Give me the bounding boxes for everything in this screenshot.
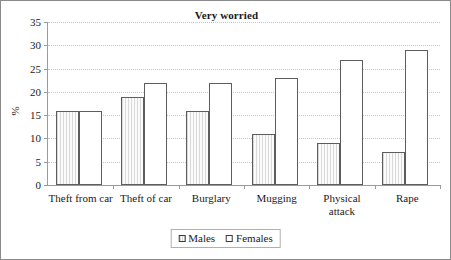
bar-males bbox=[56, 111, 79, 186]
chart-title: Very worried bbox=[1, 9, 451, 21]
x-axis-label-theft-of-car: Theft of car bbox=[113, 192, 178, 205]
bar-females bbox=[79, 111, 102, 186]
bar-group bbox=[244, 22, 309, 185]
bar-males bbox=[121, 97, 144, 185]
legend-item-males[interactable]: Males bbox=[178, 232, 215, 244]
bar-females bbox=[144, 83, 167, 185]
bar-females bbox=[405, 50, 428, 185]
bar-group bbox=[113, 22, 178, 185]
chart-legend: MalesFemales bbox=[170, 229, 281, 248]
bar-group bbox=[309, 22, 374, 185]
x-axis-label-theft-from-car: Theft from car bbox=[48, 192, 113, 205]
legend-label: Females bbox=[236, 232, 273, 244]
bar-females bbox=[209, 83, 232, 185]
bar-group bbox=[179, 22, 244, 185]
x-tick-mark bbox=[440, 185, 441, 189]
bar-males bbox=[186, 111, 209, 186]
bar-males bbox=[252, 134, 275, 185]
x-axis-label-rape: Rape bbox=[375, 192, 440, 205]
x-axis-label-burglary: Burglary bbox=[179, 192, 244, 205]
legend-item-females[interactable]: Females bbox=[226, 232, 273, 244]
y-tick-label-10: 10 bbox=[30, 132, 41, 144]
bar-group bbox=[375, 22, 440, 185]
bar-females bbox=[340, 60, 363, 185]
legend-label: Males bbox=[188, 232, 215, 244]
y-tick-label-30: 30 bbox=[30, 39, 41, 51]
x-axis-line bbox=[47, 185, 440, 186]
bar-males bbox=[382, 152, 405, 185]
plot-area: 05101520253035 bbox=[48, 22, 440, 185]
y-tick-label-5: 5 bbox=[36, 156, 42, 168]
y-axis-line bbox=[47, 22, 48, 186]
y-tick-label-25: 25 bbox=[30, 63, 41, 75]
legend-swatch-icon-females bbox=[226, 235, 233, 242]
y-tick-label-20: 20 bbox=[30, 86, 41, 98]
bar-females bbox=[275, 78, 298, 185]
y-tick-label-15: 15 bbox=[30, 109, 41, 121]
bar-group bbox=[48, 22, 113, 185]
x-axis-label-mugging: Mugging bbox=[244, 192, 309, 205]
y-tick-label-0: 0 bbox=[36, 179, 42, 191]
chart-container: Very worried % 05101520253035 Theft from… bbox=[0, 0, 451, 260]
y-axis-label: % bbox=[9, 106, 21, 115]
bar-males bbox=[317, 143, 340, 185]
x-axis-label-physical-attack: Physical attack bbox=[309, 192, 374, 218]
y-tick-label-35: 35 bbox=[30, 16, 41, 28]
legend-swatch-icon-males bbox=[178, 235, 185, 242]
